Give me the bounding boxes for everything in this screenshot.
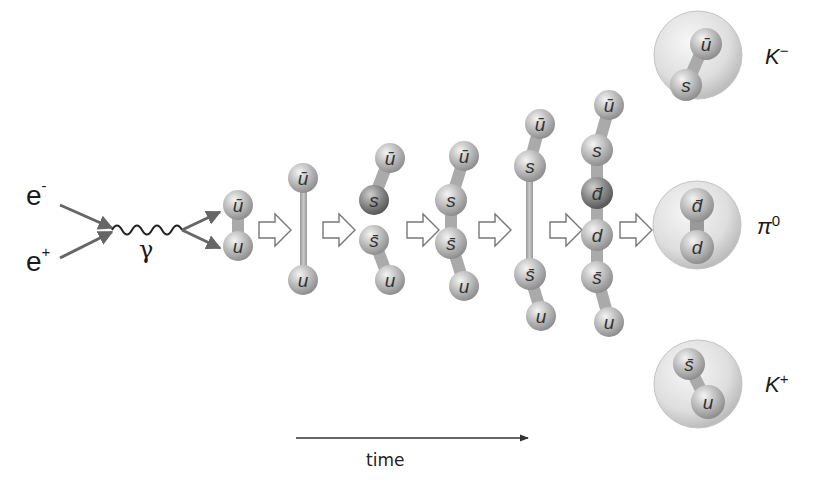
- stage-6: ū s d̄ d s̄ u: [581, 90, 624, 337]
- transition-arrow: [479, 214, 511, 246]
- k-minus-label: K−: [765, 42, 788, 70]
- svg-text:ū: ū: [298, 168, 309, 189]
- svg-text:s̄: s̄: [592, 267, 602, 288]
- diagram-canvas: ū u ū u ū s s̄ u ū s s̄ u: [0, 0, 826, 484]
- hadron-k-plus: s̄ u: [654, 340, 742, 428]
- svg-text:ū: ū: [459, 146, 470, 167]
- k-plus-label: K+: [765, 370, 788, 398]
- hadron-pi-zero: d̄ d: [653, 181, 741, 269]
- transition-arrow: [550, 214, 582, 246]
- electron-line: [60, 205, 112, 228]
- svg-text:s: s: [369, 190, 379, 211]
- transition-arrow: [407, 214, 439, 246]
- positron-line: [60, 232, 112, 258]
- stage-4: ū s s̄ u: [435, 141, 479, 301]
- transition-arrow: [620, 214, 652, 246]
- hadron-k-minus: ū s: [654, 11, 742, 101]
- svg-text:u: u: [385, 270, 396, 291]
- svg-text:d̄: d̄: [692, 195, 704, 216]
- stage-3: ū s s̄ u: [359, 143, 405, 295]
- svg-text:s: s: [446, 190, 456, 211]
- svg-text:s̄: s̄: [369, 230, 379, 251]
- svg-text:ū: ū: [701, 34, 712, 55]
- svg-text:ū: ū: [535, 114, 546, 135]
- stage-1: ū u: [223, 190, 253, 261]
- svg-text:s: s: [592, 140, 602, 161]
- svg-text:ū: ū: [604, 95, 615, 116]
- svg-text:u: u: [536, 306, 547, 327]
- svg-text:ū: ū: [233, 195, 244, 216]
- fragmentation-diagram: ū u ū u ū s s̄ u ū s s̄ u: [0, 0, 826, 484]
- svg-text:u: u: [604, 312, 615, 333]
- svg-text:u: u: [459, 276, 470, 297]
- svg-text:u: u: [233, 236, 244, 257]
- svg-text:s̄: s̄: [446, 233, 456, 254]
- svg-text:s̄: s̄: [525, 264, 535, 285]
- svg-text:d: d: [692, 237, 704, 258]
- quark-line-down: [182, 230, 220, 248]
- photon-propagator: [112, 226, 182, 235]
- positron-label: e+: [26, 246, 50, 278]
- svg-text:d: d: [592, 225, 604, 246]
- svg-text:ū: ū: [385, 148, 396, 169]
- electron-label: e-: [26, 180, 47, 212]
- svg-text:s: s: [525, 156, 535, 177]
- svg-text:d̄: d̄: [592, 183, 604, 204]
- transition-arrow: [259, 214, 291, 246]
- svg-text:s̄: s̄: [684, 354, 694, 375]
- svg-text:s: s: [681, 75, 691, 96]
- svg-text:u: u: [298, 270, 309, 291]
- pi-zero-label: π0: [757, 212, 780, 240]
- time-axis-label: time: [366, 450, 404, 470]
- quark-line-up: [182, 212, 220, 230]
- svg-text:u: u: [703, 392, 714, 413]
- photon-label: γ: [139, 236, 153, 264]
- stage-2: ū u: [288, 163, 318, 295]
- transition-arrow: [323, 214, 355, 246]
- stage-5: ū s s̄ u: [514, 109, 556, 331]
